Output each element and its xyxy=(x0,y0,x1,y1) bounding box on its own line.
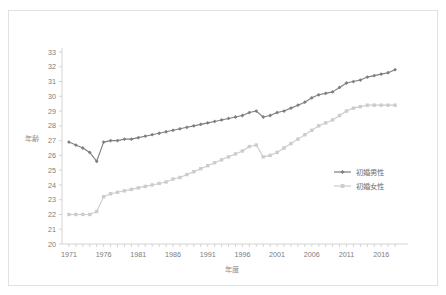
y-axis-title: 年齢 xyxy=(25,134,39,143)
data-point-marker xyxy=(324,121,327,124)
series-male xyxy=(67,68,397,163)
data-point-marker xyxy=(164,180,167,183)
data-point-marker xyxy=(116,139,120,143)
x-tick-label: 1976 xyxy=(96,250,112,259)
y-tick-label: 30 xyxy=(48,92,56,101)
data-point-marker xyxy=(130,188,133,191)
data-point-marker xyxy=(275,151,278,154)
data-point-marker xyxy=(372,74,376,78)
data-point-marker xyxy=(220,158,223,161)
data-point-marker xyxy=(178,127,182,131)
x-tick-label: 1971 xyxy=(61,250,77,259)
y-tick-label: 23 xyxy=(48,195,56,204)
data-point-marker xyxy=(289,106,293,110)
data-point-marker xyxy=(255,143,258,146)
data-point-marker xyxy=(129,137,133,141)
x-tick-label: 1996 xyxy=(234,250,250,259)
data-point-marker xyxy=(123,189,126,192)
data-point-marker xyxy=(151,183,154,186)
line-chart-plot: 2021222324252627282930313233 19711976198… xyxy=(0,0,446,295)
data-point-marker xyxy=(248,145,251,148)
data-point-marker xyxy=(171,128,175,132)
data-point-marker xyxy=(373,103,376,106)
data-point-marker xyxy=(74,213,77,216)
data-point-marker xyxy=(123,137,127,141)
data-point-marker xyxy=(109,139,113,143)
y-tick-label: 33 xyxy=(48,48,56,57)
y-tick-label: 26 xyxy=(48,151,56,160)
x-tick-label: 2001 xyxy=(269,250,285,259)
data-point-marker xyxy=(268,114,272,118)
y-tick-label: 24 xyxy=(48,181,56,190)
y-tick-label: 25 xyxy=(48,166,56,175)
data-point-marker xyxy=(67,213,70,216)
data-point-marker xyxy=(116,191,119,194)
data-point-marker xyxy=(74,143,78,147)
y-tick-label: 20 xyxy=(48,240,56,249)
legend-item-label[interactable]: 初婚男性 xyxy=(356,168,384,177)
data-series-group xyxy=(67,68,397,216)
x-tick-label: 2016 xyxy=(373,250,389,259)
data-point-marker xyxy=(192,124,196,128)
data-point-marker xyxy=(338,114,341,117)
chart-legend: 初婚男性初婚女性 xyxy=(334,168,384,191)
y-tick-label: 32 xyxy=(48,62,56,71)
data-point-marker xyxy=(164,130,168,134)
data-point-marker xyxy=(213,120,217,124)
data-point-marker xyxy=(352,106,355,109)
data-point-marker xyxy=(102,195,105,198)
data-point-marker xyxy=(143,134,147,138)
data-point-marker xyxy=(185,125,189,129)
data-point-marker xyxy=(137,186,140,189)
data-point-marker xyxy=(358,78,362,82)
data-point-marker xyxy=(296,137,299,140)
y-tick-label: 27 xyxy=(48,136,56,145)
data-point-marker xyxy=(109,192,112,195)
y-axis-tick-group: 2021222324252627282930313233 xyxy=(48,48,62,249)
data-point-marker xyxy=(331,118,334,121)
legend-item-label[interactable]: 初婚女性 xyxy=(356,182,384,191)
data-point-marker xyxy=(95,210,98,213)
data-point-marker xyxy=(136,136,140,140)
data-point-marker xyxy=(199,122,203,126)
data-point-marker xyxy=(157,131,161,135)
data-point-marker xyxy=(213,161,216,164)
data-point-marker xyxy=(144,185,147,188)
data-point-marker xyxy=(324,91,328,95)
data-point-marker xyxy=(345,109,348,112)
y-tick-label: 21 xyxy=(48,225,56,234)
data-point-marker xyxy=(157,182,160,185)
data-point-marker xyxy=(282,109,286,113)
data-point-marker xyxy=(171,177,174,180)
data-point-marker xyxy=(220,118,224,122)
data-point-marker xyxy=(386,103,389,106)
y-tick-label: 22 xyxy=(48,210,56,219)
y-tick-label: 31 xyxy=(48,77,56,86)
data-point-marker xyxy=(359,105,362,108)
data-point-marker xyxy=(206,164,209,167)
data-point-marker xyxy=(268,154,271,157)
data-point-marker xyxy=(366,103,369,106)
data-point-marker xyxy=(241,149,244,152)
data-point-marker xyxy=(234,115,238,119)
data-point-marker xyxy=(352,80,356,84)
x-tick-label: 2011 xyxy=(339,250,354,259)
data-point-marker xyxy=(386,71,390,75)
legend-swatch-marker xyxy=(341,184,345,188)
x-axis-title: 年度 xyxy=(225,265,239,274)
data-point-marker xyxy=(192,170,195,173)
data-point-marker xyxy=(241,114,245,118)
data-point-marker xyxy=(275,111,279,115)
data-point-marker xyxy=(67,140,71,144)
y-tick-label: 29 xyxy=(48,107,56,116)
data-point-marker xyxy=(81,213,84,216)
chart-container: 2021222324252627282930313233 19711976198… xyxy=(0,0,446,295)
x-tick-label: 1986 xyxy=(165,250,181,259)
data-point-marker xyxy=(206,121,210,125)
data-point-marker xyxy=(199,167,202,170)
x-tick-label: 2006 xyxy=(304,250,320,259)
data-point-marker xyxy=(185,173,188,176)
data-point-marker xyxy=(317,93,321,97)
data-point-marker xyxy=(379,103,382,106)
data-point-marker xyxy=(310,129,313,132)
